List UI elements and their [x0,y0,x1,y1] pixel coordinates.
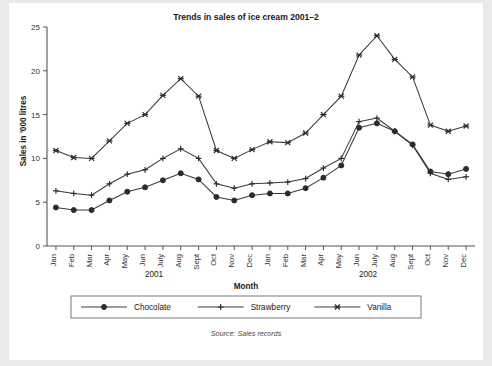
data-point-marker [445,177,451,183]
data-point-marker [102,305,107,310]
y-tick-label: 20 [31,67,40,76]
x-axis-ticks: JanFebMarAprMayJunJulyAugSeptOctNovDecJa… [49,246,468,270]
y-tick-label: 0 [36,242,41,251]
data-point-marker [143,185,148,190]
x-axis-label: Month [234,282,259,291]
data-point-marker [53,188,59,194]
data-point-marker [124,171,130,177]
data-point-marker [107,181,113,187]
y-axis-label: Sales in '000 litres [19,95,28,166]
data-point-marker [107,198,112,203]
data-point-marker [339,163,344,168]
data-point-marker [124,121,130,126]
data-point-marker [106,138,112,143]
x-tick-label: Dec [245,254,254,268]
data-point-marker [71,155,77,160]
source-note: Source: Sales records [211,329,282,338]
x-tick-label: Sept [192,253,201,270]
data-point-marker [249,147,255,152]
y-tick-label: 15 [31,111,40,120]
data-point-marker [214,194,219,199]
legend-item-label: Strawberry [251,303,291,312]
data-point-marker [89,192,95,198]
data-point-marker [374,121,379,126]
data-point-marker [142,167,148,173]
chart-title: Trends in sales of ice cream 2001–2 [173,12,319,22]
y-tick-label: 5 [36,198,41,207]
data-point-marker [267,191,272,196]
data-point-marker [125,189,130,194]
x-tick-label: Feb [67,254,76,267]
legend-item-strawberry[interactable]: Strawberry [198,303,291,312]
data-point-marker [267,139,273,144]
legend-item-vanilla[interactable]: Vanilla [314,303,391,312]
x-tick-label: Nov [441,254,450,268]
data-point-marker [285,191,290,196]
data-point-marker [446,172,451,177]
data-point-marker [178,76,184,81]
x-tick-label: Apr [102,254,111,266]
source-note-group: Source: Sales records [211,329,282,338]
y-axis-ticks: 0510152025 [31,23,47,251]
data-point-marker [195,94,201,99]
data-point-marker [160,178,165,183]
data-point-marker [89,208,94,213]
x-tick-label: May [334,254,343,269]
data-point-marker [88,156,94,161]
x-tick-label: Mar [299,254,308,268]
legend-item-chocolate[interactable]: Chocolate [81,303,171,312]
x-tick-label: Oct [423,253,432,266]
data-point-marker [356,53,362,58]
data-point-marker [320,112,326,117]
data-point-marker [250,193,255,198]
x-axis-label-group: Month [234,282,259,291]
series-line [56,118,466,195]
figure-card: Trends in sales of ice cream 2001–2 Sale… [9,3,483,360]
data-point-marker [374,33,380,38]
data-point-marker [463,174,469,180]
x-tick-label: Apr [316,254,325,266]
data-point-marker [409,74,415,79]
legend-item-label: Chocolate [134,303,171,312]
data-point-marker [178,171,183,176]
data-point-marker [302,130,308,135]
y-tick-label: 25 [31,23,40,32]
data-point-marker [445,129,451,134]
chart-title-group: Trends in sales of ice cream 2001–2 [173,12,319,22]
data-point-marker [334,305,340,310]
y-tick-label: 10 [31,154,40,163]
data-point-marker [196,177,201,182]
data-point-marker [213,148,219,153]
x-tick-label: Jan [49,254,58,266]
year-group-labels: 20012002 [145,270,378,279]
data-point-marker [218,304,224,310]
x-tick-label: July [370,254,379,268]
data-point-marker [285,179,291,185]
data-point-marker [464,166,469,171]
x-tick-label: Jan [263,254,272,266]
chart-stage: Trends in sales of ice cream 2001–2 Sale… [9,3,483,360]
data-point-marker [427,123,433,128]
y-axis-label-group: Sales in '000 litres [19,95,28,166]
x-tick-label: Aug [174,254,183,268]
data-point-marker [232,198,237,203]
x-tick-label: Oct [209,253,218,266]
data-point-marker [71,191,77,197]
data-point-marker [321,175,326,180]
year-group-label: 2001 [145,270,164,279]
series-strawberry [53,115,469,198]
x-tick-label: Dec [459,254,468,268]
series-vanilla [53,33,469,161]
legend-item-label: Vanilla [367,303,391,312]
data-point-marker [53,148,59,153]
x-tick-label: July [156,254,165,268]
data-point-marker [249,181,255,187]
x-tick-label: Sept [406,253,415,270]
x-tick-label: May [120,254,129,269]
x-tick-label: Aug [388,254,397,268]
data-point-marker [303,176,309,182]
line-chart: Trends in sales of ice cream 2001–2 Sale… [9,3,483,360]
data-point-marker [142,112,148,117]
year-group-label: 2002 [359,270,378,279]
data-point-marker [231,185,237,191]
